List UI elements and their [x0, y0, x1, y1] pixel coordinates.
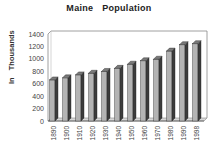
chart-plot: 0200400600800100012001400 18901900191019…	[0, 0, 218, 148]
x-tick-label: 1910	[76, 126, 83, 141]
bar	[102, 68, 111, 121]
bar	[180, 42, 189, 121]
x-tick-label: 1998	[193, 126, 200, 141]
bar	[89, 70, 98, 121]
bar	[115, 65, 124, 121]
x-tick-label: 1950	[128, 126, 135, 141]
bar	[167, 48, 176, 121]
y-axis-ticks: 0200400600800100012001400	[28, 31, 44, 125]
y-tick-label: 1200	[28, 43, 44, 50]
y-tick-label: 600	[32, 80, 44, 87]
y-tick-label: 1000	[28, 55, 44, 62]
y-tick-label: 1400	[28, 31, 44, 38]
bars	[50, 41, 202, 121]
x-tick-label: 1980	[167, 126, 174, 141]
bar	[63, 75, 72, 121]
x-tick-label: 1940	[115, 126, 122, 141]
y-tick-label: 400	[32, 93, 44, 100]
x-tick-label: 1960	[141, 126, 148, 141]
bar	[141, 58, 150, 121]
x-tick-label: 1970	[154, 126, 161, 141]
bar	[76, 72, 85, 121]
y-tick-label: 800	[32, 68, 44, 75]
x-tick-label: 1890	[50, 126, 57, 141]
x-tick-label: 1900	[63, 126, 70, 141]
y-tick-label: 0	[40, 118, 44, 125]
x-tick-label: 1920	[89, 126, 96, 141]
bar	[128, 61, 137, 121]
bar	[193, 41, 202, 121]
x-axis-ticks: 1890190019101920193019401950196019701980…	[50, 126, 200, 141]
x-tick-label: 1930	[102, 126, 109, 141]
bar	[50, 77, 59, 121]
y-tick-label: 200	[32, 105, 44, 112]
bar	[154, 56, 163, 121]
x-tick-label: 1990	[180, 126, 187, 141]
